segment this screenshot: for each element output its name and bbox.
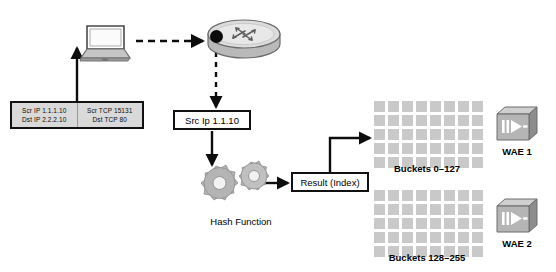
wae-1-icon — [495, 104, 539, 144]
bucket-cell — [374, 115, 385, 126]
bucket-cell — [402, 129, 413, 140]
bucket-cell — [430, 218, 441, 229]
result-index-box: Result (Index) — [291, 172, 369, 192]
bucket-cell — [430, 129, 441, 140]
bucket-cell — [472, 129, 483, 140]
wire-result-to-buckets — [330, 138, 370, 172]
packet-src-ip: Scr IP 1.1.1.10 — [22, 107, 66, 115]
bucket-cell — [444, 190, 455, 201]
bucket-cell — [444, 232, 455, 243]
bucket-cell — [472, 232, 483, 243]
bucket-cell — [374, 218, 385, 229]
bucket-cell — [472, 190, 483, 201]
bucket-cell — [472, 115, 483, 126]
bucket-cell — [402, 204, 413, 215]
packet-dst-tcp: Dst TCP 80 — [93, 116, 127, 124]
bucket-cell — [458, 143, 469, 154]
bucket-cell — [374, 129, 385, 140]
bucket-grid-bottom-label: Buckets 128–255 — [362, 252, 492, 263]
bucket-cell — [402, 115, 413, 126]
bucket-cell — [430, 204, 441, 215]
bucket-cell — [416, 204, 427, 215]
bucket-cell — [374, 190, 385, 201]
bucket-cell — [388, 115, 399, 126]
packet-tcp-column: Scr TCP 15131 Dst TCP 80 — [77, 103, 143, 127]
bucket-cell — [472, 218, 483, 229]
bucket-cell — [416, 232, 427, 243]
bucket-cell — [416, 218, 427, 229]
bucket-cell — [472, 204, 483, 215]
interface-dot-icon — [210, 30, 223, 43]
bucket-cell — [458, 115, 469, 126]
bucket-cell — [458, 232, 469, 243]
diagram-canvas: Scr IP 1.1.1.10 Dst IP 2.2.2.10 Scr TCP … — [0, 0, 556, 272]
bucket-cell — [388, 218, 399, 229]
bucket-cell — [388, 129, 399, 140]
bucket-cell — [402, 101, 413, 112]
bucket-cell — [402, 218, 413, 229]
bucket-grid-bottom — [374, 190, 483, 257]
packet-src-tcp: Scr TCP 15131 — [87, 107, 133, 115]
bucket-cell — [458, 101, 469, 112]
bucket-cell — [444, 218, 455, 229]
bucket-cell — [458, 204, 469, 215]
src-ip-box: Src Ip 1.1.10 — [173, 110, 251, 130]
bucket-cell — [416, 143, 427, 154]
bucket-cell — [374, 101, 385, 112]
bucket-cell — [388, 190, 399, 201]
bucket-cell — [374, 143, 385, 154]
laptop-icon — [74, 24, 132, 66]
bucket-cell — [402, 190, 413, 201]
bucket-cell — [416, 129, 427, 140]
packet-dst-ip: Dst IP 2.2.2.10 — [22, 116, 66, 124]
bucket-cell — [416, 101, 427, 112]
bucket-cell — [472, 143, 483, 154]
bucket-cell — [444, 143, 455, 154]
bucket-cell — [430, 232, 441, 243]
bucket-cell — [430, 143, 441, 154]
bucket-cell — [430, 190, 441, 201]
bucket-cell — [416, 115, 427, 126]
hash-function-label: Hash Function — [186, 216, 296, 227]
bucket-cell — [374, 232, 385, 243]
wae-1-label: WAE 1 — [491, 146, 543, 157]
bucket-cell — [444, 204, 455, 215]
bucket-cell — [374, 204, 385, 215]
bucket-cell — [458, 190, 469, 201]
bucket-grid-top-label: Buckets 0–127 — [368, 163, 486, 174]
bucket-cell — [444, 129, 455, 140]
bucket-cell — [472, 101, 483, 112]
packet-ip-column: Scr IP 1.1.1.10 Dst IP 2.2.2.10 — [12, 103, 77, 127]
bucket-cell — [416, 190, 427, 201]
packet-header-box: Scr IP 1.1.1.10 Dst IP 2.2.2.10 Scr TCP … — [10, 101, 144, 129]
bucket-cell — [402, 143, 413, 154]
bucket-cell — [458, 218, 469, 229]
gears-icon — [190, 160, 290, 216]
bucket-cell — [388, 143, 399, 154]
wae-2-icon — [495, 196, 539, 236]
bucket-cell — [430, 115, 441, 126]
bucket-cell — [388, 204, 399, 215]
bucket-cell — [444, 101, 455, 112]
bucket-cell — [388, 101, 399, 112]
wae-2-label: WAE 2 — [491, 238, 543, 249]
bucket-cell — [402, 232, 413, 243]
bucket-cell — [388, 232, 399, 243]
bucket-cell — [444, 115, 455, 126]
bucket-cell — [430, 101, 441, 112]
bucket-cell — [458, 129, 469, 140]
bucket-grid-top — [374, 101, 483, 168]
